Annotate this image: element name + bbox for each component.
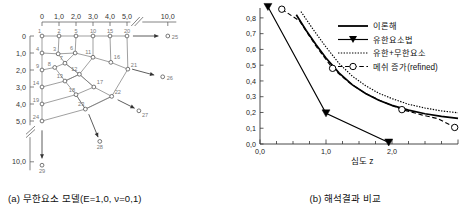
- mesh-edge: [58, 36, 59, 54]
- mesh-node: [109, 60, 113, 64]
- x-tick-2: 2,0: [71, 12, 81, 21]
- marker-circle: [399, 106, 405, 112]
- y-tick-0: 0: [22, 32, 26, 41]
- mesh-node: [57, 34, 61, 38]
- mesh-node: [40, 34, 44, 38]
- x-tick-2: 2,0: [387, 147, 397, 156]
- node-label-4: 4: [36, 46, 39, 52]
- node-label-5: 5: [74, 28, 77, 34]
- legend-label-1: 유한요소법: [373, 35, 413, 45]
- mesh-node: [40, 85, 44, 89]
- node-label-26: 26: [167, 75, 173, 81]
- arrow-head: [40, 154, 44, 158]
- node-label-2: 2: [57, 28, 60, 34]
- mesh-node: [74, 93, 78, 97]
- y-axis-tick-labels: 0,00,10,20,30,40,50,60,70,8: [246, 14, 256, 149]
- series-line: [268, 7, 389, 143]
- mesh-node: [40, 119, 44, 123]
- figure-b-caption: (b) 해석결과 비교: [230, 191, 461, 205]
- y-tick-6: 10,0: [12, 157, 26, 166]
- marker-circle: [279, 6, 285, 12]
- legend-item-2: 유한+무한요소: [338, 49, 426, 58]
- mesh-node: [40, 51, 44, 55]
- mesh-edge: [42, 87, 112, 109]
- node-label-19: 19: [33, 97, 39, 103]
- legend-label-2: 유한+무한요소: [373, 49, 426, 58]
- y-tick-3: 3,0: [16, 83, 26, 92]
- node-label-10: 10: [90, 28, 96, 34]
- mesh-node: [91, 55, 95, 59]
- legend-label-3: 메쉬 증가(refined): [373, 63, 438, 72]
- mesh-edge: [79, 74, 93, 87]
- node-label-28: 28: [97, 144, 103, 150]
- mesh-node: [110, 94, 114, 98]
- x-tick-4: 4,0: [105, 12, 115, 21]
- legend-marker-circle: [350, 63, 356, 69]
- node-label-1: 1: [38, 28, 41, 34]
- node-label-20: 20: [124, 28, 130, 34]
- mesh-node: [126, 67, 130, 71]
- node-label-3: 3: [53, 46, 56, 52]
- legend-item-0: 이론해: [338, 21, 397, 31]
- node-label-9: 9: [36, 63, 39, 69]
- x-axis-label: 심도 z: [351, 156, 374, 166]
- mesh-node: [98, 140, 102, 144]
- mesh-node: [125, 34, 129, 38]
- node-label-7: 7: [60, 55, 63, 61]
- mesh-node: [166, 34, 170, 38]
- infinite-element-model-diagram: 1251015204914192436111621781213172218232…: [0, 0, 230, 178]
- mesh-node: [53, 66, 57, 70]
- node-label-16: 16: [114, 54, 120, 60]
- figure-a-panel: 1251015204914192436111621781213172218232…: [0, 0, 230, 209]
- y-tick-4: 0,4: [246, 77, 256, 86]
- marker-triangle-down: [385, 139, 393, 146]
- mesh-node: [74, 34, 78, 38]
- marker-triangle-down: [264, 3, 272, 10]
- mesh-node: [40, 68, 44, 72]
- node-label-21: 21: [131, 62, 137, 68]
- marker-circle: [452, 124, 458, 130]
- node-label-12: 12: [71, 66, 77, 72]
- mesh-node: [137, 109, 141, 113]
- x-tick-0: 0,0: [255, 147, 265, 156]
- y-tick-7: 0,7: [246, 29, 256, 38]
- y-tick-1: 0,1: [246, 124, 256, 133]
- x-tick-1: 1,0: [321, 147, 331, 156]
- node-label-11: 11: [85, 49, 91, 55]
- x-tick-1: 1,0: [54, 12, 64, 21]
- mesh-node: [40, 102, 44, 106]
- y-tick-4: 4,0: [16, 100, 26, 109]
- legend-item-3: 메쉬 증가(refined): [338, 63, 438, 72]
- mesh-node: [63, 61, 67, 65]
- node-label-29: 29: [39, 168, 45, 174]
- mesh-edge: [85, 96, 111, 109]
- mesh-node: [78, 72, 82, 76]
- mesh-node: [83, 107, 87, 111]
- marker-triangle-down: [322, 110, 330, 117]
- x-tick-5: 5,0: [122, 12, 132, 21]
- mesh-node: [40, 163, 44, 167]
- mesh-node: [108, 34, 112, 38]
- figure-pair-container: 1251015204914192436111621781213172218232…: [0, 0, 461, 209]
- mesh-node: [92, 85, 96, 89]
- node-label-25: 25: [172, 34, 178, 40]
- x-tick-6: 10,0: [161, 12, 175, 21]
- x-tick-0: 0: [40, 12, 44, 21]
- analysis-comparison-chart: 0,00,10,20,30,40,50,60,70,8 0,01,02,0 이론…: [230, 0, 461, 180]
- mesh-edge: [127, 36, 128, 69]
- y-tick-8: 0,8: [246, 14, 256, 23]
- marker-circle: [329, 65, 335, 71]
- mesh-edge: [75, 36, 76, 53]
- node-label-13: 13: [57, 73, 63, 79]
- node-label-group: 1251015204914192436111621781213172218232…: [33, 28, 178, 174]
- chart-axes: [260, 8, 458, 144]
- figure-a-caption: (a) 무한요소 모델(E=1,0, ν=0,1): [0, 191, 238, 205]
- y-tick-2: 0,2: [246, 108, 256, 117]
- y-tick-5: 0,5: [246, 61, 256, 70]
- figure-b-panel: 0,00,10,20,30,40,50,60,70,8 0,01,02,0 이론…: [230, 0, 461, 209]
- chart-series-group: [264, 3, 458, 146]
- node-label-8: 8: [48, 61, 51, 67]
- node-label-6: 6: [70, 45, 73, 51]
- mesh-node: [63, 79, 67, 83]
- y-tick-3: 0,3: [246, 92, 256, 101]
